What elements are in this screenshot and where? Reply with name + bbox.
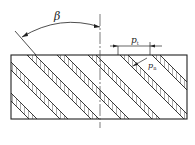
band xyxy=(57,55,129,119)
band xyxy=(0,55,68,119)
hatched-bands xyxy=(0,55,195,119)
pt-label: pt xyxy=(131,35,139,46)
arrowhead xyxy=(150,45,155,48)
beta-arc xyxy=(22,22,100,37)
beta-label: β xyxy=(53,10,60,23)
band xyxy=(27,55,99,119)
arrowhead xyxy=(94,24,100,28)
arrowhead xyxy=(113,45,118,48)
pn-label: pn xyxy=(148,61,157,71)
arrowhead xyxy=(22,32,28,37)
helical-gear-diagram: β pt pn xyxy=(0,0,195,145)
